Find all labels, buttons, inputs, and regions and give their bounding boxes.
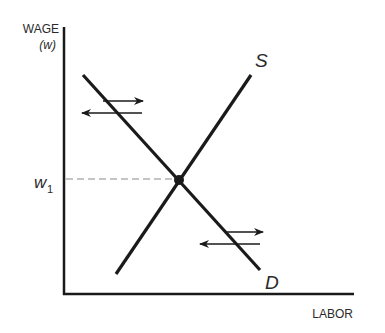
labor-market-diagram: WAGE (w) LABOR w 1 S D	[0, 0, 385, 333]
equilibrium-wage-label: w	[34, 173, 48, 192]
equilibrium-wage-subscript: 1	[47, 183, 53, 195]
y-axis-label: WAGE	[23, 22, 59, 36]
demand-label: D	[265, 272, 279, 293]
x-axis-label: LABOR	[312, 307, 353, 321]
demand-curve	[83, 75, 260, 270]
supply-label: S	[255, 50, 268, 71]
equilibrium-point	[174, 175, 184, 185]
y-axis-sublabel: (w)	[39, 38, 56, 52]
axes	[63, 27, 354, 295]
